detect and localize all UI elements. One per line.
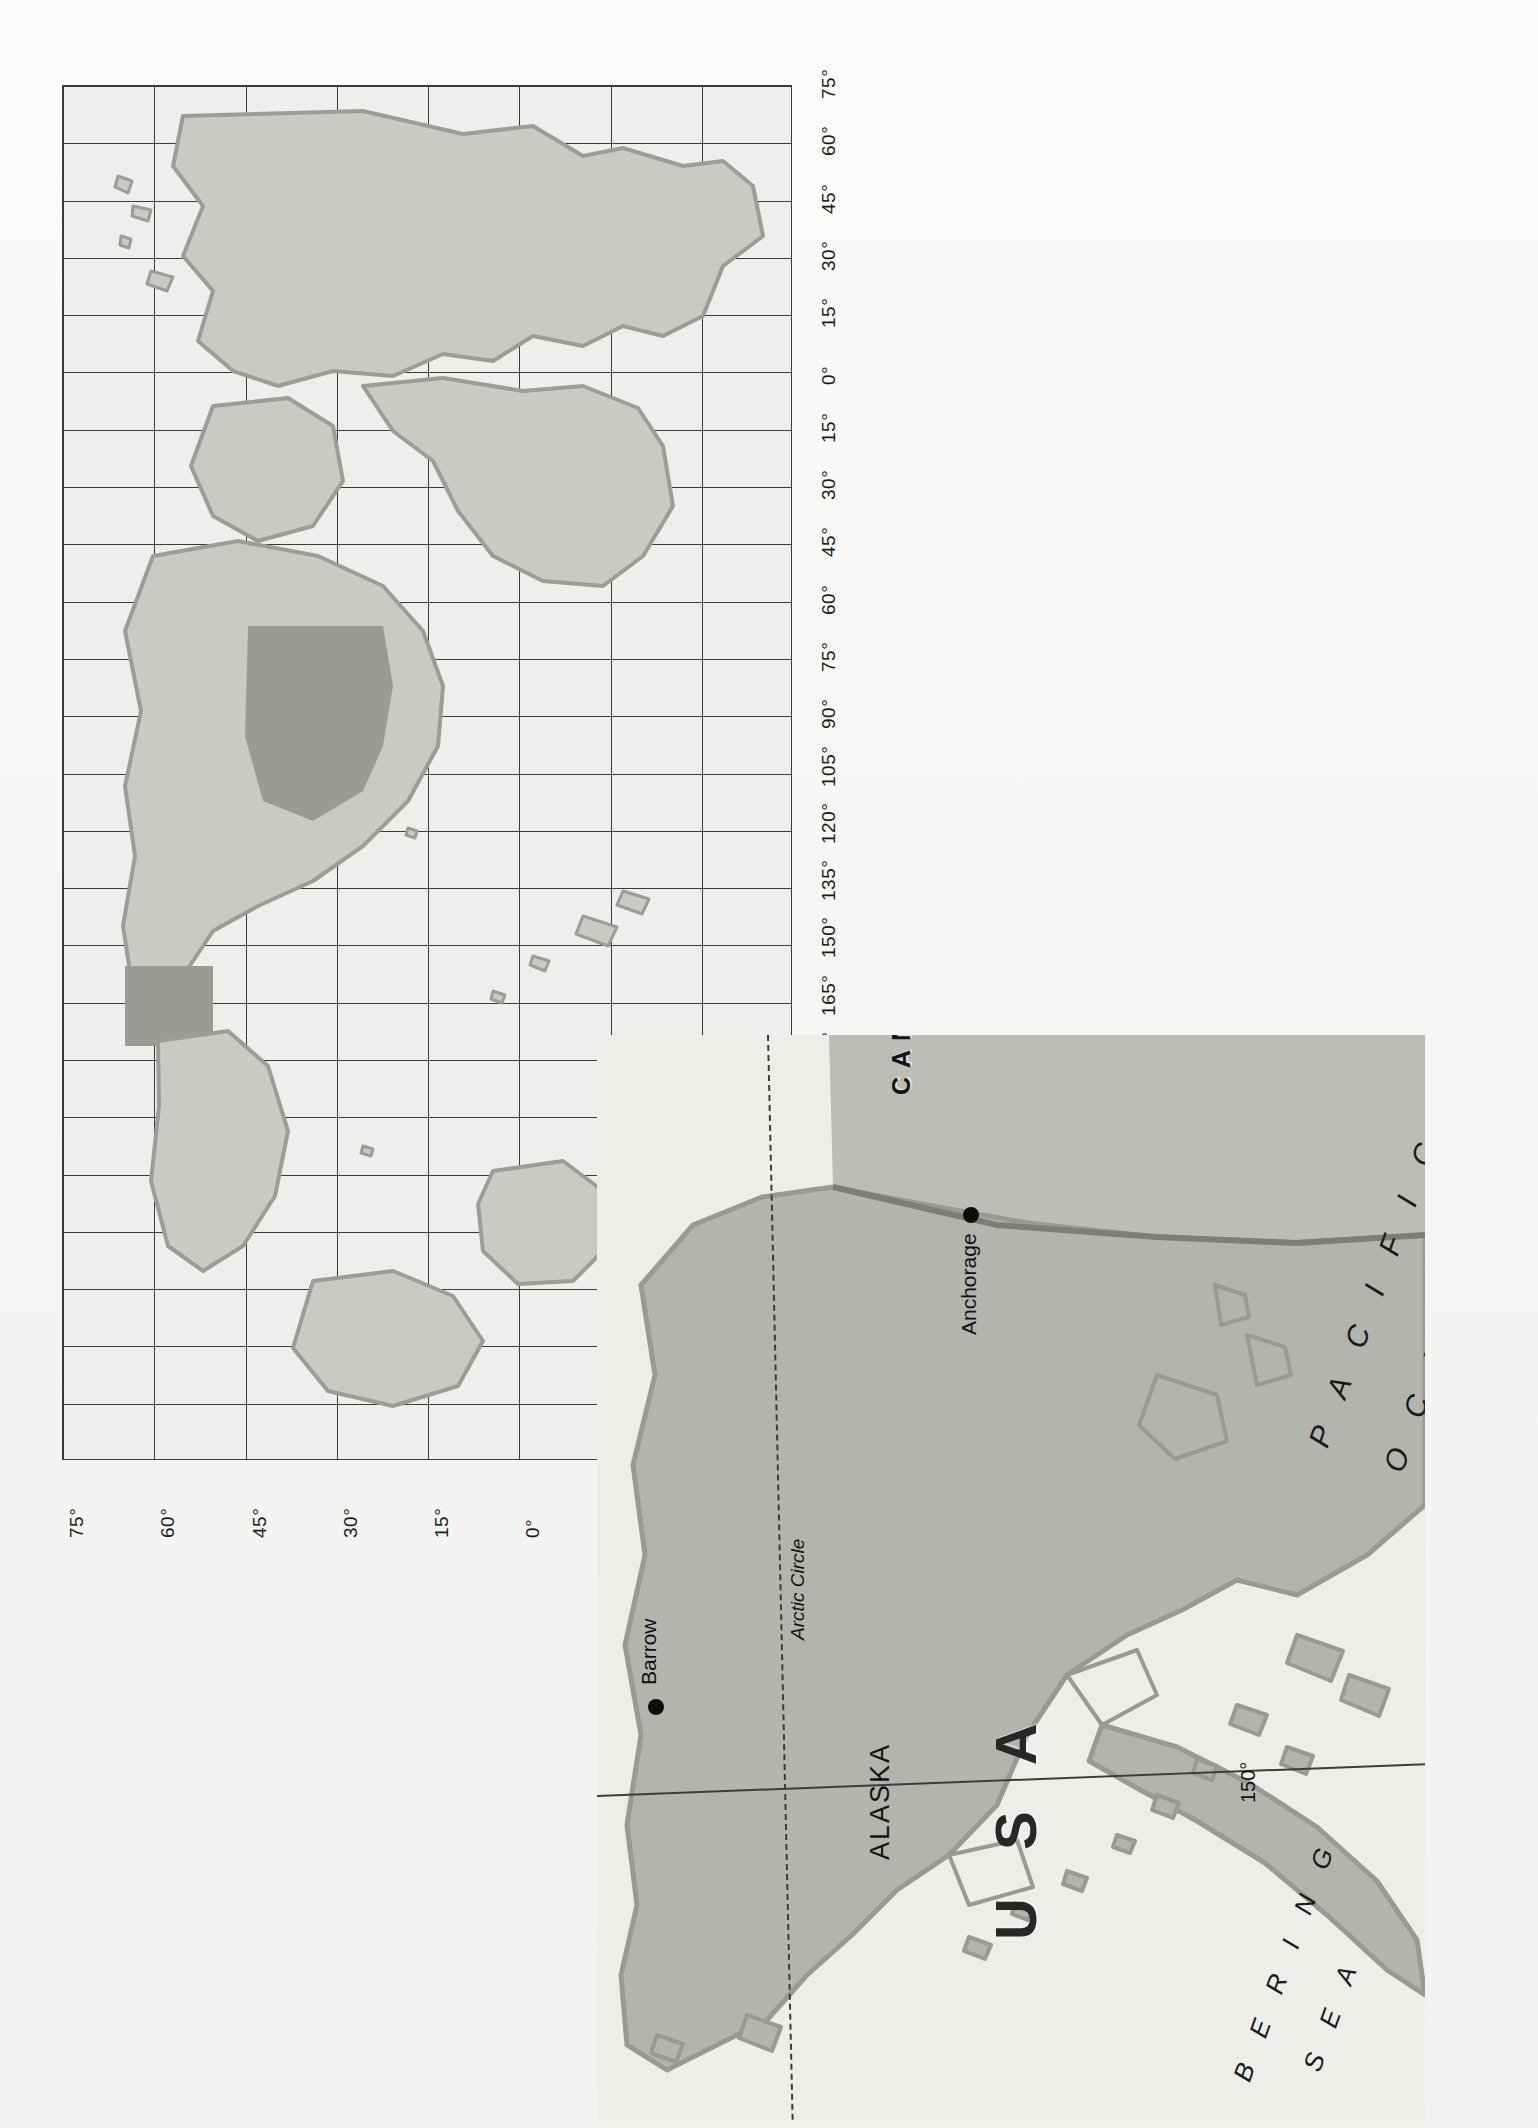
island: [530, 956, 549, 971]
label-usa: U S A: [982, 1707, 1049, 1940]
longitude-tick-label: 75°: [818, 69, 840, 99]
longitude-tick-label: 30°: [818, 241, 840, 271]
alaska-inset: CANADA U S A ALASKA P A C I F I C O C E …: [597, 1035, 1425, 2120]
latitude-tick-label: 45°: [249, 1508, 271, 1538]
island: [361, 1146, 373, 1156]
longitude-tick-label: 15°: [818, 413, 840, 443]
latitude-tick-label: 0°: [522, 1519, 544, 1538]
longitude-tick-label: 105°: [818, 745, 840, 786]
label-lon-150: 150°: [1237, 1762, 1260, 1803]
aleutian-island-8: [1063, 1871, 1087, 1891]
aleutian-island-2: [1341, 1675, 1389, 1716]
longitude-tick-label: 30°: [818, 470, 840, 500]
city-dot-anchorage: [963, 1207, 979, 1223]
label-barrow: Barrow: [637, 1618, 661, 1685]
latitude-tick-label: 30°: [340, 1508, 362, 1538]
longitude-tick-label: 135°: [818, 860, 840, 901]
longitude-tick-label: 45°: [818, 527, 840, 557]
aleutian-island: [617, 891, 649, 914]
australia-landmass: [478, 1161, 608, 1284]
island: [406, 828, 417, 838]
longitude-tick-label: 45°: [818, 183, 840, 213]
aleutian-island-1: [1287, 1635, 1343, 1681]
longitude-tick-label: 15°: [818, 298, 840, 328]
southeast-asia-landmass: [293, 1271, 483, 1406]
africa-landmass: [363, 378, 673, 586]
longitude-tick-label: 60°: [818, 584, 840, 614]
longitude-tick-label: 75°: [818, 642, 840, 672]
label-arctic-circle: Arctic Circle: [787, 1539, 809, 1640]
island: [120, 236, 131, 248]
south-america-landmass: [151, 1031, 288, 1271]
longitude-tick-label: 120°: [818, 802, 840, 843]
island: [115, 176, 132, 193]
aleutian-island-10: [964, 1937, 991, 1959]
aleutian-island-7: [1113, 1835, 1135, 1853]
label-canada: CANADA: [887, 1035, 916, 1095]
longitude-tick-label: 0°: [818, 366, 840, 385]
island: [132, 206, 151, 221]
latitude-tick-label: 15°: [431, 1508, 453, 1538]
pribilof-island: [739, 2015, 781, 2051]
island: [491, 991, 505, 1003]
page-canvas: 75°60°45°30°15°0°15°30°45°60°75°90°105°1…: [0, 0, 1538, 2128]
eurasia-landmass: [173, 111, 763, 386]
longitude-tick-label: 90°: [818, 699, 840, 729]
city-dot-barrow: [648, 1699, 664, 1715]
greenland-landmass: [191, 398, 343, 541]
aleutian-island: [576, 916, 617, 946]
latitude-tick-label: 60°: [157, 1508, 179, 1538]
latitude-tick-label: 75°: [66, 1508, 88, 1538]
island: [147, 271, 173, 291]
longitude-tick-label: 165°: [818, 974, 840, 1015]
label-anchorage: Anchorage: [957, 1233, 981, 1335]
longitude-tick-label: 150°: [818, 917, 840, 958]
aleutian-island-3: [1230, 1705, 1267, 1735]
label-lat-65: 65°: [597, 2065, 600, 2095]
longitude-tick-label: 60°: [818, 126, 840, 156]
label-alaska: ALASKA: [865, 1743, 896, 1860]
